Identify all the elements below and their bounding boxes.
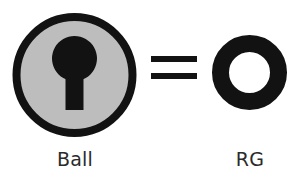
ring-annulus-icon	[211, 33, 288, 112]
equals-bar-bottom	[151, 73, 197, 79]
keyhole-stem-shape	[66, 75, 84, 110]
keyhole-head-shape	[52, 36, 97, 81]
keyhole-disc-svg	[11, 12, 138, 138]
ring-shape	[221, 44, 279, 102]
equals-bar-top	[151, 56, 197, 62]
equals-icon	[151, 54, 197, 81]
right-figure-label: RG	[205, 148, 294, 170]
keyhole-disc-icon	[11, 12, 138, 138]
figure-canvas: Ball RG	[0, 0, 294, 177]
ring-annulus-svg	[211, 33, 288, 112]
left-figure-label: Ball	[15, 148, 135, 170]
